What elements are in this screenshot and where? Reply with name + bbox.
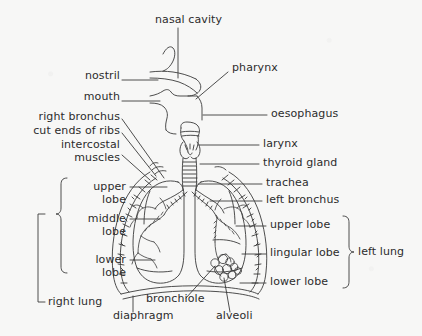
label-right-lung: right lung [48, 296, 102, 309]
label-larynx: larynx [263, 138, 298, 151]
label-diaphragm: diaphragm [113, 310, 174, 323]
larynx-thyroid [180, 122, 200, 159]
label-trachea: trachea [266, 177, 309, 190]
leader-alveoli [224, 278, 230, 312]
label-lingular-lobe: lingular lobe [270, 247, 340, 260]
label-right-bronchus: right bronchus [4, 111, 120, 124]
respiratory-system-diagram [0, 0, 422, 336]
left-lung-brace [343, 216, 354, 288]
label-middle-lobe-right: middle lobe [22, 213, 126, 238]
label-upper-lobe-left: upper lobe [270, 219, 330, 232]
label-nostril: nostril [8, 70, 120, 83]
leader-cut-ends-of-ribs [122, 133, 156, 176]
alveoli-cluster [211, 254, 242, 281]
ribcage [112, 172, 267, 294]
label-left-bronchus: left bronchus [266, 194, 339, 207]
right-lung [133, 181, 184, 283]
label-upper-lobe-right: upper lobe [22, 181, 126, 206]
leader-intercostal-muscles [122, 155, 150, 180]
label-intercostal-muscles: intercostal muscles [4, 139, 120, 164]
head-neck-profile [150, 47, 202, 134]
right-bronchial-tree [130, 198, 166, 268]
leader-right-bronchus [122, 119, 164, 178]
label-left-lung: left lung [358, 246, 404, 259]
label-oesophagus: oesophagus [271, 108, 338, 121]
bronchi [155, 190, 224, 218]
label-lower-lobe-left: lower lobe [270, 276, 328, 289]
label-pharynx: pharynx [232, 62, 278, 75]
label-lower-lobe-right: lower lobe [22, 254, 126, 279]
label-alveoli: alveoli [216, 310, 253, 323]
label-cut-ends-of-ribs: cut ends of ribs [4, 125, 120, 138]
trachea [182, 158, 197, 190]
label-thyroid-gland: thyroid gland [263, 157, 337, 170]
label-mouth: mouth [8, 91, 120, 104]
label-nasal-cavity: nasal cavity [155, 14, 222, 27]
label-bronchiole: bronchiole [146, 293, 205, 306]
